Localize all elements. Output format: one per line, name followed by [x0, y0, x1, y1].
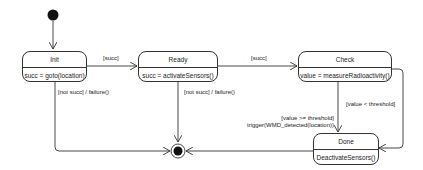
state-name: Init [23, 52, 86, 68]
label-check-done-above-action: trigger(WMD_detected(location)) [230, 122, 334, 129]
final-node-core [174, 147, 183, 156]
state-name: Ready [139, 52, 217, 68]
state-name: Check [299, 52, 391, 68]
initial-node [48, 10, 59, 21]
state-check[interactable]: Check value = measureRadioactivity() [298, 51, 392, 82]
state-action: succ = goto(location) [23, 68, 86, 83]
label-init-final: [not succ] / failure() [58, 89, 109, 96]
state-action: succ = activateSensors() [139, 68, 217, 83]
label-check-done-below: [value < threshold] [346, 101, 395, 108]
label-ready-check: [succ] [251, 55, 267, 62]
state-action: value = measureRadioactivity() [299, 68, 391, 83]
state-ready[interactable]: Ready succ = activateSensors() [138, 51, 218, 82]
label-check-done-above-guard: [value >= threshold] [256, 115, 334, 122]
state-action: DeactivateSensors() [314, 150, 378, 165]
state-name: Done [314, 134, 378, 150]
state-done[interactable]: Done DeactivateSensors() [313, 133, 379, 165]
label-init-ready: [succ] [103, 55, 119, 62]
label-ready-final: [not succ] / failure() [184, 89, 235, 96]
state-init[interactable]: Init succ = goto(location) [22, 51, 87, 82]
